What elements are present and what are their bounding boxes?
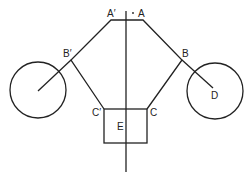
linkage-diagram: A′ A B′ B C′ C D E: [0, 0, 249, 180]
label-d: D: [211, 90, 218, 101]
label-a: A: [138, 8, 145, 19]
label-c: C: [150, 107, 157, 118]
label-e: E: [117, 121, 124, 132]
label-b-prime: B′: [63, 48, 72, 59]
label-c-prime: C′: [92, 107, 101, 118]
marker-dot: [132, 12, 134, 14]
label-a-prime: A′: [107, 8, 116, 19]
label-b: B: [182, 48, 189, 59]
left-circle: [10, 62, 66, 118]
